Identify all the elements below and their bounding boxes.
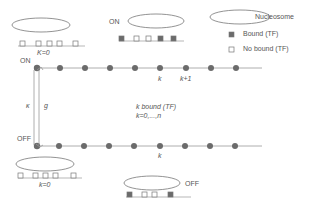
on-label-top: ON — [109, 18, 120, 25]
k-label-top: k — [158, 75, 162, 82]
kappa-label: κ — [26, 102, 30, 109]
nucleosome-ellipse — [128, 14, 184, 28]
legend-nucleosome-label: Nucleosome — [255, 13, 294, 20]
g-label: g — [44, 102, 48, 109]
tf-sites-mixed-top — [119, 36, 176, 41]
legend-bound-label: Bound (TF) — [243, 30, 278, 37]
nucleosome-ellipse — [16, 157, 74, 171]
k-plus-1-label: k+1 — [180, 75, 191, 82]
k-range-label: k=0,...,n — [136, 112, 161, 119]
legend-unbound-label: No bound (TF) — [243, 45, 289, 52]
tf-sites-all-unbound-top — [20, 41, 78, 46]
k0-label-bottom: k=0 — [39, 181, 50, 188]
off-state-label: OFF — [17, 135, 31, 142]
k0-label-top: K=0 — [37, 49, 50, 56]
k-label-bottom: k — [158, 152, 162, 159]
on-off-transition-arrows — [34, 67, 43, 147]
k-bound-label: k bound (TF) — [136, 103, 176, 110]
nucleosome-ellipse — [12, 18, 70, 32]
legend-bound-icon — [229, 32, 234, 37]
legend-unbound-icon — [229, 47, 234, 52]
tf-sites-all-unbound-bottom — [18, 173, 76, 178]
tf-sites-mixed-bottom — [127, 192, 173, 197]
on-state-label: ON — [20, 57, 31, 64]
nucleosome-ellipse — [124, 176, 180, 190]
off-label-bottom: OFF — [185, 180, 199, 187]
